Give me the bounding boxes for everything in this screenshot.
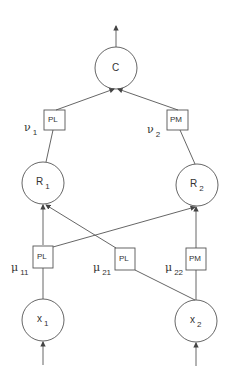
node-x1-sub: 1 [44,319,48,328]
param-mu21-symbol: μ [93,261,100,274]
edge-mu21-r1 [46,205,116,248]
node-r2-text: R [190,178,197,189]
param-mu22-sub: 22 [174,268,183,277]
box-mu22-label: PM [189,255,201,263]
param-v2-symbol: ν [147,123,154,136]
node-x2-text: x [190,314,195,325]
node-c-text: C [112,62,119,73]
param-v1: ν1 [24,118,37,134]
node-x2-label: x2 [190,315,201,325]
edge-x2-mu21 [135,270,195,300]
node-r2-label: R2 [190,179,204,189]
param-mu11: μ11 [11,258,28,274]
edge-v2-c [118,89,178,110]
param-v1-symbol: ν [24,121,31,134]
param-v1-sub: 1 [33,128,37,137]
edge-r1-v1 [46,130,53,162]
param-mu11-sub: 11 [20,268,28,277]
node-c-label: C [112,63,119,73]
box-v2-label: PM [170,116,182,124]
param-mu22: μ22 [165,258,183,274]
node-x1-label: x1 [37,314,48,324]
node-r1-label: R1 [36,177,50,187]
param-mu11-symbol: μ [11,261,18,274]
box-mu11-label: PL [37,253,47,261]
node-r1-sub: 1 [45,182,49,191]
diagram-edges [0,0,230,387]
edge-mu11-r2 [53,207,195,247]
param-v2: ν2 [147,120,160,136]
node-r1-text: R [36,176,43,187]
param-mu22-symbol: μ [165,261,172,274]
diagram-canvas: C R1 R2 x1 x2 PL PM PL PL PM ν1 ν2 μ11 μ… [0,0,230,387]
param-v2-sub: 2 [156,130,160,139]
box-mu21-label: PL [119,255,129,263]
node-r2-sub: 2 [199,184,203,193]
box-v1-label: PL [48,116,58,124]
param-mu21-sub: 21 [102,268,111,277]
param-mu21: μ21 [93,258,111,274]
node-x1-text: x [37,313,42,324]
edge-r2-v2 [180,130,195,164]
node-x2-sub: 2 [197,320,201,329]
edge-v1-c [56,89,114,110]
